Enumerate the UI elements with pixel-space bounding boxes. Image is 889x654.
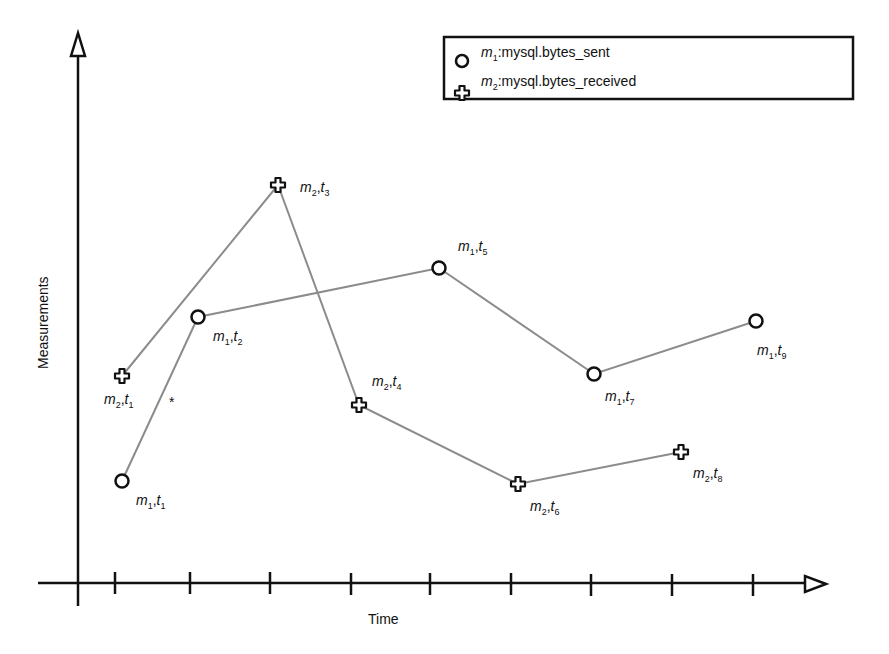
circle-marker-icon	[116, 475, 129, 488]
point-label-m2-t8: m2,t8	[693, 465, 722, 484]
x-axis-title: Time	[368, 611, 399, 627]
circle-marker-icon	[750, 315, 763, 328]
circle-marker-icon	[433, 262, 446, 275]
point-label-m2-t1: m2,t1	[104, 391, 133, 410]
series-m1-line	[122, 268, 756, 481]
plus-marker-icon	[511, 477, 525, 491]
point-label-m1-t5: m1,t5	[458, 238, 487, 257]
chart-canvas: Time Measurements m1,t1 m1,t2 m1,t5	[0, 0, 889, 654]
plus-marker-icon	[352, 398, 366, 412]
point-label-m1-t9: m1,t9	[757, 342, 786, 361]
legend: m1:mysql.bytes_sent m2:mysql.bytes_recei…	[444, 37, 853, 100]
x-axis	[38, 572, 826, 596]
y-axis	[71, 33, 85, 606]
point-label-m2-t6: m2,t6	[530, 498, 559, 517]
series-m2-line	[122, 185, 681, 484]
point-labels: m1,t1 m1,t2 m1,t5 m1,t7 m1,t9 m2,t1 m2,t…	[104, 179, 786, 517]
point-label-m1-t2: m1,t2	[213, 328, 242, 347]
asterisk-annotation: *	[169, 394, 175, 410]
plus-marker-icon	[674, 445, 688, 459]
circle-marker-icon	[192, 311, 205, 324]
legend-circle-icon	[456, 55, 468, 67]
x-axis-arrow-icon	[805, 576, 826, 592]
series-m1-markers	[116, 262, 763, 488]
y-axis-arrow-icon	[71, 33, 85, 56]
series-m2-markers	[115, 178, 688, 491]
point-label-m1-t7: m1,t7	[605, 388, 634, 407]
y-axis-title: Measurements	[35, 276, 51, 369]
circle-marker-icon	[588, 368, 601, 381]
point-label-m2-t3: m2,t3	[300, 179, 329, 198]
point-label-m1-t1: m1,t1	[136, 492, 165, 511]
point-label-m2-t4: m2,t4	[372, 373, 401, 392]
